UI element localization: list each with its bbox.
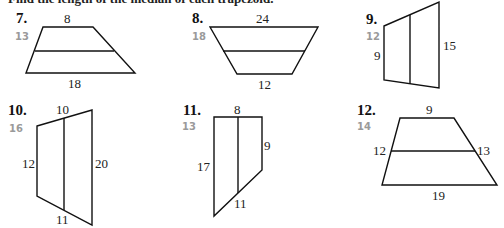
problem-7: 7. 13 8 18 xyxy=(15,10,135,91)
answer-value: 14 xyxy=(357,121,371,132)
bottom-label: 11 xyxy=(234,196,247,211)
bottom-label: 11 xyxy=(56,212,69,227)
answer-value: 13 xyxy=(182,121,196,132)
answer-value: 18 xyxy=(192,31,206,42)
problem-9: 9. 12 9 15 xyxy=(366,2,456,88)
left-base-label: 12 xyxy=(22,156,35,171)
problem-8: 8. 18 24 12 xyxy=(192,10,318,92)
left-base-label: 9 xyxy=(374,48,381,63)
top-base-label: 8 xyxy=(64,11,71,26)
problem-12: 12. 14 9 12 13 19 xyxy=(357,102,497,203)
problem-number: 12. xyxy=(357,102,376,118)
problem-number: 11. xyxy=(183,102,201,118)
problem-number: 9. xyxy=(366,11,378,27)
top-label: 8 xyxy=(234,102,241,117)
problem-number: 8. xyxy=(192,10,204,26)
trapezoid-shape xyxy=(26,27,135,73)
right-base-label: 15 xyxy=(443,38,456,53)
answer-value: 13 xyxy=(15,31,29,42)
problem-figures: 7. 13 8 18 8. 18 24 12 9. 12 9 15 10. 16… xyxy=(0,0,504,228)
answer-value: 16 xyxy=(9,123,23,134)
problem-number: 7. xyxy=(16,10,28,26)
trapezoid-shape xyxy=(384,2,439,88)
left-base-label: 17 xyxy=(197,159,211,174)
right-base-label: 20 xyxy=(95,156,108,171)
right-base-label: 9 xyxy=(264,138,271,153)
bottom-base-label: 12 xyxy=(258,77,271,92)
right-median-label: 13 xyxy=(477,143,490,158)
top-base-label: 24 xyxy=(256,11,270,26)
problem-10: 10. 16 10 12 20 11 xyxy=(8,102,108,227)
top-label: 10 xyxy=(56,102,69,117)
problem-number: 10. xyxy=(8,102,27,118)
top-base-label: 9 xyxy=(426,102,433,117)
left-median-label: 12 xyxy=(373,143,386,158)
bottom-base-label: 18 xyxy=(68,76,81,91)
problem-11: 11. 13 8 17 9 11 xyxy=(182,102,271,216)
bottom-base-label: 19 xyxy=(432,188,445,203)
answer-value: 12 xyxy=(366,31,380,42)
